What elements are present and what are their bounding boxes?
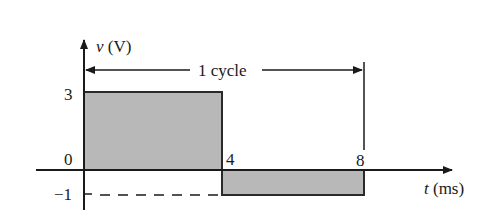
x-axis-label: t (ms)	[424, 179, 464, 198]
negative-pulse	[222, 170, 364, 195]
x-tick-label-0: 0	[64, 150, 73, 169]
y-tick-label-3: 3	[64, 85, 73, 104]
x-tick-label-8: 8	[356, 151, 365, 170]
y-tick-label-neg1: −1	[54, 185, 72, 204]
square-wave-diagram: v (V) 1 cycle 3 0 4 8 −1 t (ms)	[0, 0, 503, 212]
x-tick-label-4: 4	[226, 150, 235, 169]
positive-pulse	[84, 92, 222, 170]
cycle-label: 1 cycle	[198, 61, 247, 80]
y-axis-label: v (V)	[96, 37, 131, 56]
